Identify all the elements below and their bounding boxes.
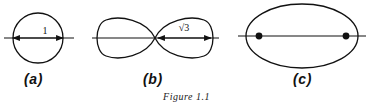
- panel-label-b: (b): [143, 72, 163, 86]
- panel-a-figure: 1: [4, 13, 74, 63]
- figure-container: 1 √3 (a) (b) (c) Figure 1.1: [0, 0, 373, 110]
- panel-a-measure-label: 1: [43, 25, 48, 36]
- panel-label-a: (a): [24, 72, 43, 86]
- panel-b-figure: √3: [92, 18, 219, 58]
- panel-c-figure: [238, 4, 366, 68]
- panel-c-focus-left: [256, 33, 263, 40]
- panel-b-measure-label: √3: [179, 22, 190, 33]
- figure-caption: Figure 1.1: [0, 92, 373, 102]
- panel-label-c: (c): [293, 72, 312, 86]
- panel-c-focus-right: [343, 33, 350, 40]
